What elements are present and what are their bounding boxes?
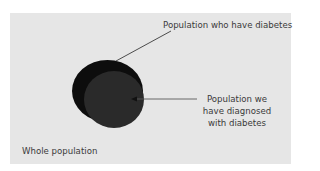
diabetes-leader-line bbox=[116, 31, 171, 61]
label-whole-population: Whole population bbox=[22, 146, 97, 157]
label-population-with-diabetes: Population who have diabetes bbox=[163, 20, 292, 31]
label-population-diagnosed: Population we have diagnosed with diabet… bbox=[196, 93, 278, 129]
